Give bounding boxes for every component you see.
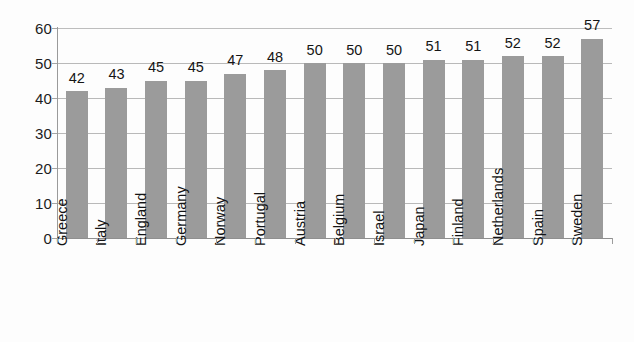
bar[interactable]: [105, 88, 127, 239]
x-tick-mark: [57, 238, 58, 244]
x-tick-label-slot: Israel: [374, 246, 414, 342]
x-tick-mark: [335, 238, 336, 244]
x-tick-mark: [136, 238, 137, 244]
y-tick-label: 10: [6, 196, 52, 211]
x-tick-label-slot: Sweden: [572, 246, 612, 342]
x-axis: GreeceItalyEnglandGermanyNorwayPortugalA…: [57, 246, 612, 342]
x-tick-mark: [453, 238, 454, 244]
bar-chart: 0102030405060 42434545474850505051515252…: [0, 0, 634, 342]
bar-slot: 52: [533, 28, 573, 238]
x-tick-label-slot: Italy: [97, 246, 137, 342]
x-tick-label-slot: Norway: [216, 246, 256, 342]
bar-value-label: 45: [188, 60, 204, 75]
x-tick-mark: [414, 238, 415, 244]
bar-value-label: 48: [267, 50, 283, 65]
y-tick-label: 30: [6, 126, 52, 141]
x-tick-mark: [612, 238, 613, 244]
x-tick-label-slot: Finland: [453, 246, 493, 342]
bar-slot: 50: [374, 28, 414, 238]
bar-value-label: 50: [307, 43, 323, 58]
x-tick-label-slot: Belgium: [335, 246, 375, 342]
y-tick-label: 0: [6, 231, 52, 246]
x-tick-label-slot: Germany: [176, 246, 216, 342]
x-tick-label-slot: Austria: [295, 246, 335, 342]
x-tick-label-slot: England: [136, 246, 176, 342]
x-tick-mark: [216, 238, 217, 244]
y-tick-label: 40: [6, 91, 52, 106]
x-tick-label-slot: Spain: [533, 246, 573, 342]
bar-value-label: 57: [584, 18, 600, 33]
x-tick-mark: [97, 238, 98, 244]
bar-value-label: 50: [386, 43, 402, 58]
y-axis: 0102030405060: [0, 0, 52, 342]
y-tick-label: 20: [6, 161, 52, 176]
bar-slot: 43: [97, 28, 137, 238]
bar-value-label: 47: [227, 53, 243, 68]
bar-value-label: 51: [465, 39, 481, 54]
bar-value-label: 42: [69, 71, 85, 86]
x-tick-label-slot: Portugal: [255, 246, 295, 342]
x-tick-label-slot: Greece: [57, 246, 97, 342]
bar-value-label: 52: [505, 36, 521, 51]
y-tick-label: 50: [6, 56, 52, 71]
bar-value-label: 52: [544, 36, 560, 51]
x-tick-label-slot: Netherlands: [493, 246, 533, 342]
bar-value-label: 45: [148, 60, 164, 75]
x-tick-label: Netherlands: [491, 168, 506, 246]
x-tick-mark: [493, 238, 494, 244]
bar-value-label: 51: [426, 39, 442, 54]
x-tick-label-slot: Japan: [414, 246, 454, 342]
x-tick-mark: [374, 238, 375, 244]
bar-value-label: 50: [346, 43, 362, 58]
bar-value-label: 43: [108, 67, 124, 82]
x-tick-mark: [572, 238, 573, 244]
x-tick-mark: [176, 238, 177, 244]
x-tick-mark: [533, 238, 534, 244]
x-tick-mark: [295, 238, 296, 244]
x-tick-mark: [255, 238, 256, 244]
y-tick-label: 60: [6, 21, 52, 36]
